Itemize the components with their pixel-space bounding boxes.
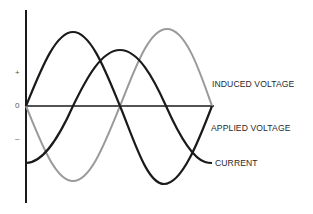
waveform-plot [0,0,313,214]
plus-axis-label: + [15,69,20,77]
applied-voltage-label: APPLIED VOLTAGE [211,123,291,133]
zero-axis-label: 0 [15,102,19,110]
waveform-diagram: + 0 – INDUCED VOLTAGE APPLIED VOLTAGE CU… [0,0,313,214]
current-label: CURRENT [215,158,258,168]
minus-axis-label: – [15,135,19,143]
induced-voltage-label: INDUCED VOLTAGE [212,79,294,89]
